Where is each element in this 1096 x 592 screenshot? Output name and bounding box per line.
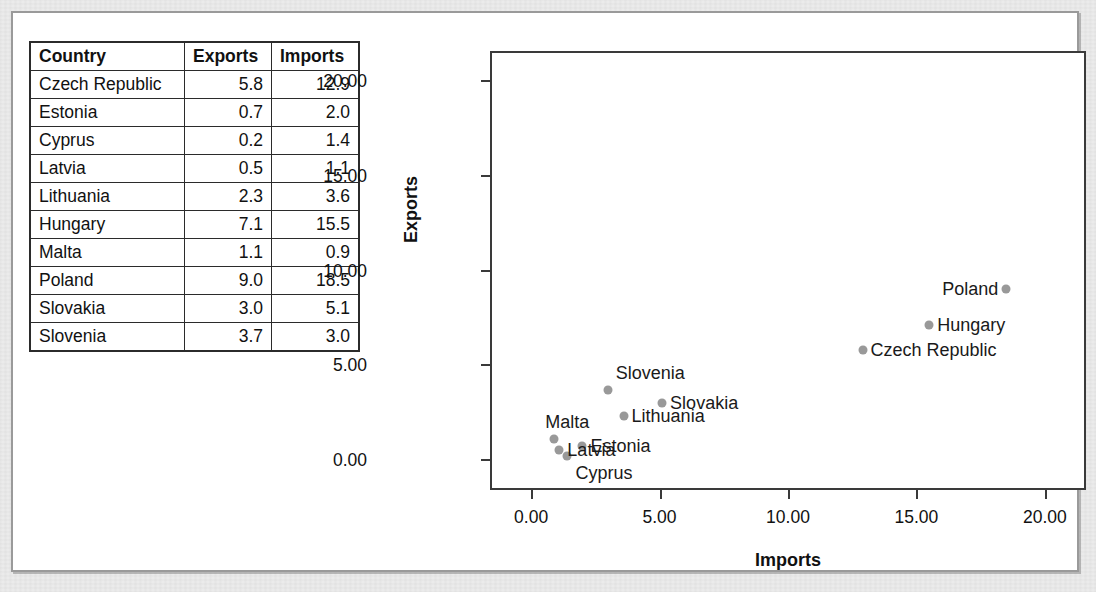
cell-exports: 1.1 xyxy=(185,239,272,267)
cell-country: Estonia xyxy=(30,99,185,127)
screenshot-page: Country Exports Imports Czech Republic5.… xyxy=(0,0,1096,592)
cell-country: Hungary xyxy=(30,211,185,239)
table-header: Country Exports Imports xyxy=(30,42,359,71)
cell-country: Latvia xyxy=(30,155,185,183)
data-point xyxy=(658,398,667,407)
cell-exports: 0.7 xyxy=(185,99,272,127)
cell-country: Czech Republic xyxy=(30,71,185,99)
y-axis-tick-label: 20.00 xyxy=(297,71,367,92)
cell-exports: 3.0 xyxy=(185,295,272,323)
data-point-label: Slovenia xyxy=(616,362,685,383)
x-axis-tick-label: 20.00 xyxy=(1023,507,1067,528)
y-axis-tick-label: 10.00 xyxy=(297,260,367,281)
data-point-label: Slovakia xyxy=(670,392,738,413)
y-axis-tick-label: 5.00 xyxy=(297,355,367,376)
y-axis-label: Exports xyxy=(401,176,422,243)
data-point xyxy=(555,446,564,455)
column-header-country: Country xyxy=(30,42,185,71)
cell-imports: 3.0 xyxy=(272,323,360,352)
x-axis-tick-label: 10.00 xyxy=(766,507,810,528)
x-axis-tick-label: 15.00 xyxy=(895,507,939,528)
data-point xyxy=(604,385,613,394)
table-body: Czech Republic5.812.9Estonia0.72.0Cyprus… xyxy=(30,71,359,352)
table-row: Estonia0.72.0 xyxy=(30,99,359,127)
cell-country: Poland xyxy=(30,267,185,295)
y-axis-tick-label: 0.00 xyxy=(297,449,367,470)
data-point-label: Latvia xyxy=(567,440,615,461)
cell-country: Slovenia xyxy=(30,323,185,352)
y-axis-tick-mark xyxy=(481,364,490,366)
x-axis-label: Imports xyxy=(490,550,1086,571)
data-point-label: Hungary xyxy=(937,315,1005,336)
x-axis-tick-mark xyxy=(660,490,662,499)
y-axis-tick-mark xyxy=(481,80,490,82)
data-point xyxy=(619,412,628,421)
cell-imports: 2.0 xyxy=(272,99,360,127)
cell-exports: 3.7 xyxy=(185,323,272,352)
y-axis-tick-mark xyxy=(481,270,490,272)
cell-exports: 0.5 xyxy=(185,155,272,183)
y-axis-tick-mark xyxy=(481,459,490,461)
data-point xyxy=(858,345,867,354)
column-header-imports: Imports xyxy=(272,42,360,71)
data-point-label: Poland xyxy=(942,279,998,300)
data-point xyxy=(550,434,559,443)
cell-country: Lithuania xyxy=(30,183,185,211)
data-point-label: Cyprus xyxy=(576,462,633,483)
cell-imports: 5.1 xyxy=(272,295,360,323)
content-card: Country Exports Imports Czech Republic5.… xyxy=(11,11,1079,572)
cell-country: Malta xyxy=(30,239,185,267)
table-header-row: Country Exports Imports xyxy=(30,42,359,71)
table-row: Hungary7.115.5 xyxy=(30,211,359,239)
data-point xyxy=(1002,285,1011,294)
scatter-chart: Exports Imports 0.005.0010.0015.0020.000… xyxy=(391,29,1081,574)
x-axis-tick-mark xyxy=(1045,490,1047,499)
y-axis-tick-mark xyxy=(481,175,490,177)
cell-exports: 7.1 xyxy=(185,211,272,239)
cell-imports: 15.5 xyxy=(272,211,360,239)
data-point xyxy=(925,321,934,330)
x-axis-tick-mark xyxy=(916,490,918,499)
cell-exports: 5.8 xyxy=(185,71,272,99)
cell-exports: 9.0 xyxy=(185,267,272,295)
cell-imports: 3.6 xyxy=(272,183,360,211)
cell-exports: 2.3 xyxy=(185,183,272,211)
data-point-label: Malta xyxy=(545,411,589,432)
data-point-label: Czech Republic xyxy=(871,339,997,360)
x-axis-tick-label: 0.00 xyxy=(514,507,548,528)
table-row: Slovenia3.73.0 xyxy=(30,323,359,352)
cell-exports: 0.2 xyxy=(185,127,272,155)
table-row: Lithuania2.33.6 xyxy=(30,183,359,211)
y-axis-tick-label: 15.00 xyxy=(297,165,367,186)
x-axis-tick-mark xyxy=(788,490,790,499)
table-row: Cyprus0.21.4 xyxy=(30,127,359,155)
column-header-exports: Exports xyxy=(185,42,272,71)
x-axis-tick-label: 5.00 xyxy=(643,507,677,528)
cell-imports: 1.4 xyxy=(272,127,360,155)
x-axis-tick-mark xyxy=(531,490,533,499)
table-row: Slovakia3.05.1 xyxy=(30,295,359,323)
cell-country: Cyprus xyxy=(30,127,185,155)
cell-country: Slovakia xyxy=(30,295,185,323)
